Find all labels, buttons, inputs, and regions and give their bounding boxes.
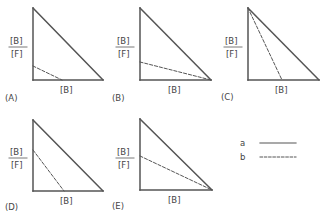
line-a: [248, 8, 319, 80]
x-label-e: [B]: [168, 195, 180, 205]
panel-label-a: (A): [5, 93, 17, 103]
x-label-a: [B]: [60, 85, 72, 95]
line-b: [140, 62, 211, 80]
line-b: [248, 8, 282, 80]
numerator: [B]: [10, 36, 22, 46]
denominator: [F]: [11, 160, 23, 170]
y-label-a: [B] [F]: [10, 36, 23, 59]
panel-e: [140, 119, 212, 190]
denominator: [F]: [11, 49, 23, 59]
x-label-c: [B]: [275, 85, 287, 95]
y-label-b: [B] [F]: [117, 36, 130, 59]
panel-b: [140, 8, 211, 80]
numerator: [B]: [10, 147, 22, 157]
x-label-b: [B]: [168, 85, 180, 95]
y-label-d: [B] [F]: [10, 147, 23, 170]
numerator: [B]: [225, 36, 237, 46]
panel-a: [33, 8, 103, 80]
line-a: [33, 120, 103, 191]
x-label-d: [B]: [60, 196, 72, 206]
legend-key-a: a: [240, 138, 245, 148]
line-b: [140, 156, 212, 190]
panel-c: [248, 8, 319, 80]
denominator: [F]: [118, 160, 130, 170]
y-label-e: [B] [F]: [117, 147, 130, 170]
y-label-c: [B] [F]: [225, 36, 238, 59]
line-a: [140, 8, 211, 80]
panel-label-e: (E): [112, 201, 124, 211]
legend-key-b: b: [240, 152, 245, 162]
line-a: [33, 8, 103, 80]
line-b: [33, 150, 64, 191]
denominator: [F]: [226, 49, 238, 59]
scatchard-plot-figure: [B] [F] [B] [F] [B] [F] [B] [F] [B] [F] …: [0, 0, 334, 221]
denominator: [F]: [118, 49, 130, 59]
numerator: [B]: [117, 36, 129, 46]
panel-label-b: (B): [112, 93, 124, 103]
line-b: [33, 66, 62, 80]
line-a: [140, 119, 212, 190]
panel-d: [33, 120, 103, 191]
numerator: [B]: [117, 147, 129, 157]
panel-label-c: (C): [221, 92, 234, 102]
panel-label-d: (D): [5, 202, 18, 212]
